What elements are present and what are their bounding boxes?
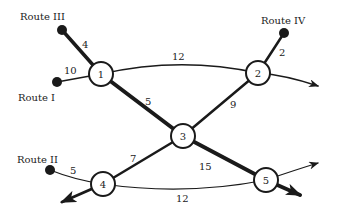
weight-route3-1: 4	[82, 39, 88, 50]
terminal-route-2	[45, 165, 55, 175]
edge-1-3	[101, 74, 183, 136]
terminal-route-1	[52, 77, 62, 87]
edge-4-5	[103, 180, 266, 189]
network-diagram: 1 2 3 4 5 Route III Route I Route IV Rou…	[0, 0, 340, 215]
edge-3-5	[183, 136, 266, 180]
weight-3-4: 7	[130, 153, 136, 164]
node-2-label: 2	[255, 68, 261, 79]
weight-route2-4: 5	[70, 165, 76, 176]
weight-route4-2: 2	[279, 47, 285, 58]
route-4-label: Route IV	[261, 15, 306, 26]
weight-4-5: 12	[176, 193, 189, 204]
route-3-label: Route III	[20, 11, 65, 22]
route-1-label: Route I	[18, 92, 55, 103]
edge-1-2	[101, 65, 258, 74]
weight-route1-1: 10	[64, 65, 77, 76]
weight-2-3: 9	[230, 99, 236, 110]
terminal-route-4	[279, 28, 289, 38]
edge-3-4	[103, 136, 183, 184]
weight-1-2: 12	[172, 51, 185, 62]
node-3-label: 3	[180, 131, 186, 142]
node-1-label: 1	[98, 69, 104, 80]
node-4-label: 4	[100, 179, 106, 190]
weight-3-5: 15	[199, 161, 212, 172]
node-5-label: 5	[263, 175, 269, 186]
route-2-label: Route II	[17, 154, 58, 165]
terminal-route-3	[57, 25, 67, 35]
edge-2-3	[183, 73, 258, 136]
weight-1-3: 5	[145, 96, 151, 107]
